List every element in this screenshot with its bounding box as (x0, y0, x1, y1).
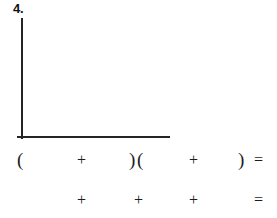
expression-row-1: (+)(+)= (0, 148, 277, 172)
plus-5: + (189, 188, 198, 212)
worksheet-page: 4. (+)(+)= +++= (0, 0, 277, 218)
equals-2: = (254, 188, 263, 212)
y-axis-line (21, 18, 23, 139)
expression-row-2: +++= (0, 188, 277, 212)
plus-4: + (134, 188, 143, 212)
open-paren-1: ( (17, 148, 23, 172)
plus-2: + (189, 148, 198, 172)
x-axis-line (17, 136, 170, 138)
plus-1: + (77, 148, 86, 172)
equals-1: = (254, 148, 263, 172)
coordinate-axes (0, 0, 277, 145)
close-paren-2: ) (238, 148, 244, 172)
plus-3: + (77, 188, 86, 212)
close-paren-1: ) (129, 148, 135, 172)
open-paren-2: ( (137, 148, 143, 172)
